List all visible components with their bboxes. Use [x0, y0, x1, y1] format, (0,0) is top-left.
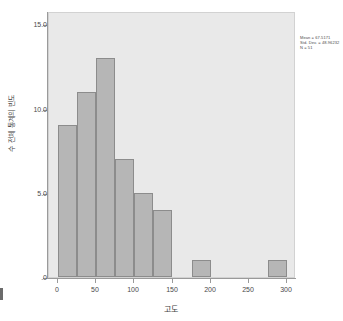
- x-tick-label: 0: [42, 285, 72, 294]
- y-tick-label: .0: [13, 274, 47, 282]
- histogram-bar: [115, 159, 134, 277]
- x-tick-mark: [248, 279, 249, 283]
- y-tick-label: 5.0: [13, 190, 47, 198]
- x-tick-mark: [57, 279, 58, 283]
- histogram-chart: .05.010.015.0 050100150200250300 수 전체 통계…: [0, 0, 343, 321]
- histogram-bar: [96, 58, 115, 277]
- histogram-bar: [58, 125, 77, 277]
- edge-marker: [0, 288, 3, 300]
- y-tick-label: 15.0: [13, 21, 47, 29]
- x-tick-mark: [133, 279, 134, 283]
- x-tick-label: 300: [271, 285, 301, 294]
- histogram-bar: [192, 260, 211, 277]
- histogram-bar: [134, 193, 153, 277]
- x-tick-label: 50: [80, 285, 110, 294]
- x-tick-mark: [95, 279, 96, 283]
- x-tick-label: 200: [195, 285, 225, 294]
- x-tick-mark: [172, 279, 173, 283]
- x-tick-mark: [286, 279, 287, 283]
- x-tick-label: 250: [233, 285, 263, 294]
- y-axis-title: 수 전체 통계의 빈도: [6, 68, 16, 178]
- x-axis-title: 고도: [48, 303, 295, 314]
- histogram-bar: [268, 260, 287, 277]
- y-tick-label: 10.0: [13, 106, 47, 114]
- plot-area: [48, 12, 295, 278]
- stat-n: N = 51: [300, 45, 342, 50]
- histogram-bar: [153, 210, 172, 277]
- x-tick-label: 100: [118, 285, 148, 294]
- y-axis-line: [47, 12, 48, 279]
- x-tick-label: 150: [157, 285, 187, 294]
- bars-layer: [49, 13, 294, 277]
- statistics-annotation: Mean = 67.5171 Std. Dev. = 48.96232 N = …: [300, 35, 342, 50]
- x-tick-mark: [210, 279, 211, 283]
- histogram-bar: [77, 92, 96, 277]
